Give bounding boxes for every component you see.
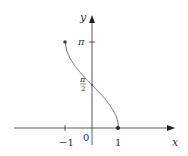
y-tick-label-pi-over-2: π 2 <box>79 75 86 93</box>
y-tick-label-pi: π <box>77 36 85 47</box>
y-axis-arrow-icon <box>89 15 95 23</box>
point-y-intercept <box>91 84 93 86</box>
x-axis-arrow-icon <box>167 125 175 131</box>
arccos-plot: y x π π 2 −1 0 1 <box>0 0 188 156</box>
svg-text:π: π <box>79 75 86 84</box>
y-axis-label: y <box>79 11 87 24</box>
svg-text:2: 2 <box>81 85 85 93</box>
x-axis-label: x <box>172 136 179 149</box>
endpoint-left <box>63 40 67 44</box>
origin-label: 0 <box>83 132 89 143</box>
x-tick-label-1: 1 <box>115 137 121 148</box>
endpoint-right <box>116 126 120 130</box>
x-tick-label-neg1: −1 <box>59 137 74 148</box>
